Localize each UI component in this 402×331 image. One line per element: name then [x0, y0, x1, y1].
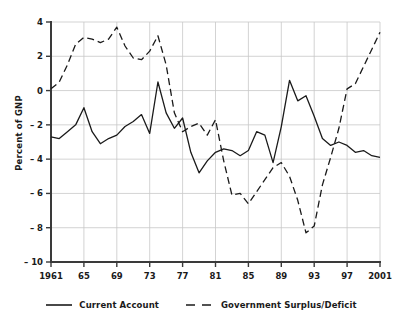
chart-legend: Current Account Government Surplus/Defic… [0, 300, 402, 310]
y-tick-label: – 6 [8, 188, 43, 198]
x-tick-label: 89 [275, 271, 287, 281]
x-tick-label: 69 [111, 271, 123, 281]
x-tick-label: 81 [210, 271, 222, 281]
x-tick-label: 1961 [39, 271, 63, 281]
x-tick-label: 77 [177, 271, 189, 281]
legend-dashed-line-icon [185, 301, 215, 309]
legend-label-government-surplus-deficit: Government Surplus/Deficit [221, 300, 357, 310]
y-tick-label: – 10 [8, 257, 43, 267]
x-tick-label: 97 [341, 271, 353, 281]
legend-label-current-account: Current Account [79, 300, 159, 310]
y-tick-label: 2 [8, 51, 43, 61]
x-tick-label: 93 [308, 271, 320, 281]
legend-solid-line-icon [45, 301, 73, 309]
x-tick-label: 85 [242, 271, 254, 281]
x-tick-label: 65 [78, 271, 90, 281]
y-tick-label: – 2 [8, 120, 43, 130]
plot-area [0, 0, 402, 331]
legend-item-government-surplus-deficit: Government Surplus/Deficit [185, 300, 357, 310]
chart-figure: Percent of GNP 420– 2– 4– 6– 8– 10 19616… [0, 0, 402, 331]
legend-item-current-account: Current Account [45, 300, 159, 310]
y-tick-label: 4 [8, 17, 43, 27]
x-tick-label: 2001 [368, 271, 392, 281]
grid-lines [51, 22, 380, 262]
y-tick-label: – 4 [8, 154, 43, 164]
y-tick-label: – 8 [8, 223, 43, 233]
y-tick-label: 0 [8, 86, 43, 96]
x-tick-label: 73 [144, 271, 156, 281]
